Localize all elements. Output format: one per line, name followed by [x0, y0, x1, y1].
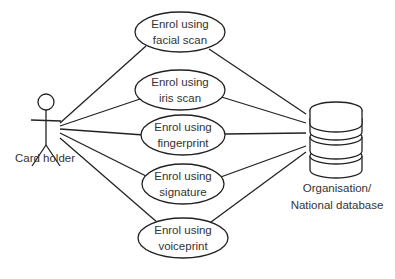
- usecase-signature: Enrol using signature: [138, 168, 228, 200]
- usecase-fingerprint-line1: Enrol using: [138, 119, 228, 135]
- usecase-iris-line2: iris scan: [135, 90, 225, 106]
- usecase-facial: Enrol using facial scan: [135, 16, 225, 48]
- usecase-signature-line1: Enrol using: [138, 168, 228, 184]
- usecase-iris-line1: Enrol using: [135, 74, 225, 90]
- usecase-voiceprint-line1: Enrol using: [138, 222, 228, 238]
- usecase-facial-line2: facial scan: [135, 32, 225, 48]
- usecase-voiceprint: Enrol using voiceprint: [138, 222, 228, 254]
- database-label: Organisation/ National database: [285, 180, 389, 214]
- assoc-fingerprint-db: [225, 133, 306, 134]
- usecase-fingerprint: Enrol using fingerprint: [138, 119, 228, 151]
- usecase-signature-line2: signature: [138, 184, 228, 200]
- usecase-fingerprint-line2: fingerprint: [138, 135, 228, 151]
- database-icon: [310, 102, 362, 178]
- card-holder-label: Card holder: [2, 150, 88, 167]
- usecase-iris: Enrol using iris scan: [135, 74, 225, 106]
- database-label-line2: National database: [285, 197, 389, 214]
- usecase-facial-line1: Enrol using: [135, 16, 225, 32]
- usecase-voiceprint-line2: voiceprint: [138, 238, 228, 254]
- assoc-actor-fingerprint: [60, 129, 144, 135]
- database-label-line1: Organisation/: [285, 180, 389, 197]
- assoc-iris-db: [215, 95, 306, 123]
